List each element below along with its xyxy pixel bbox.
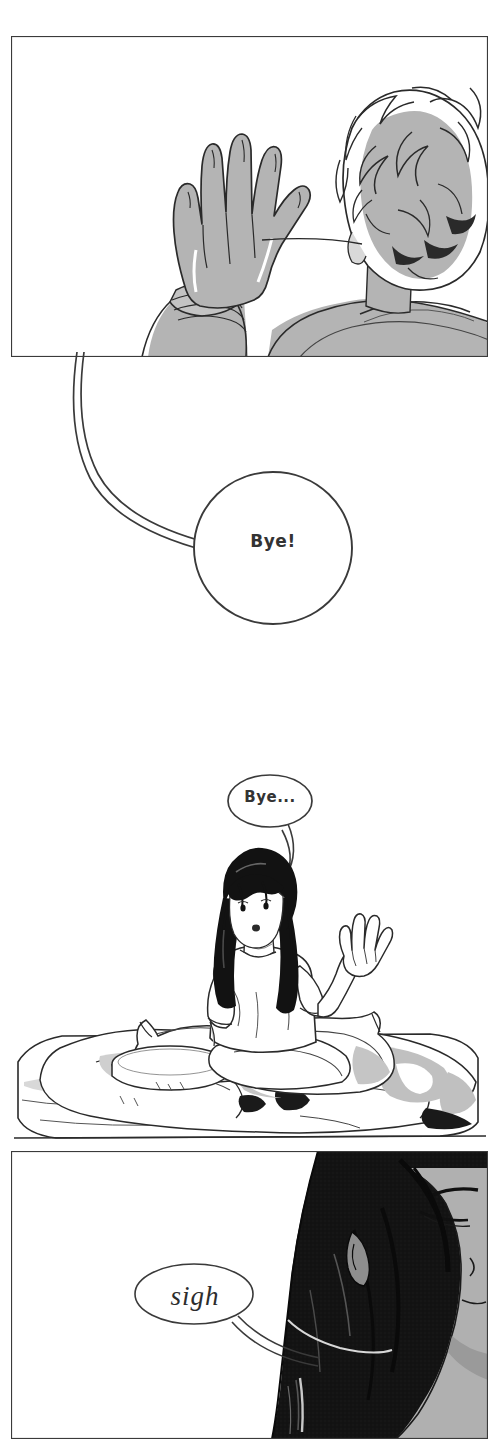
comic-page: Bye! Bye... sigh [0, 0, 499, 1439]
comic-artwork [0, 0, 499, 1439]
balloon-sigh-text: sigh [135, 1281, 255, 1312]
balloon-bye-ellipsis-text: Bye... [215, 788, 325, 806]
panel-2-art [14, 775, 486, 1138]
balloon-bye-exclaim-text: Bye! [213, 531, 333, 551]
balloon-bye-exclaim-shape [74, 352, 352, 624]
panel-1-art [11, 36, 489, 357]
